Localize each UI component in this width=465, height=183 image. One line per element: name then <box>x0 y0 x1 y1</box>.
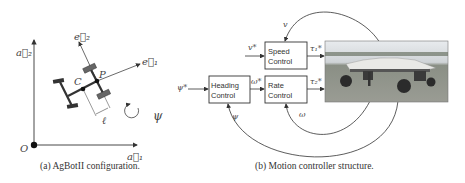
label-e1: e⃗₁ <box>142 56 158 67</box>
label-ell: ℓ <box>102 115 106 126</box>
label-p: P <box>98 69 106 80</box>
rate-label-1: Rate <box>268 81 284 90</box>
panel-a-diagram: a⃗₂ a⃗₁ e⃗₂ e⃗₁ O C P ℓ ψ <box>16 31 163 162</box>
origin-point <box>31 142 37 148</box>
label-tau1: τ₁* <box>310 44 322 53</box>
ell-dimension <box>96 108 108 114</box>
rotation-arrow-icon <box>125 104 139 118</box>
label-a2: a⃗₂ <box>16 47 32 58</box>
label-omega-ref: ω* <box>251 77 262 86</box>
figure-canvas: a⃗₂ a⃗₁ e⃗₂ e⃗₁ O C P ℓ ψ Speed Control … <box>0 0 465 183</box>
center-point-c <box>81 87 86 92</box>
label-psi: ψ <box>153 109 163 123</box>
label-v-ref: v* <box>248 43 257 52</box>
panel-b-diagram: Speed Control Heading Control Rate Contr… <box>177 12 448 157</box>
label-c: C <box>74 76 82 87</box>
v-feedback-loop <box>285 12 380 43</box>
label-e2: e⃗₂ <box>74 31 90 42</box>
label-omega-fb: ω <box>299 110 306 119</box>
rate-label-2: Control <box>268 91 293 100</box>
speed-label-2: Control <box>268 57 293 66</box>
label-v-fb: v <box>283 20 288 29</box>
label-tau2: τ₂* <box>310 77 322 86</box>
label-psi-fb: ψ <box>232 112 239 121</box>
caption-panel-a: (a) AgBotII configuration. <box>40 161 140 171</box>
heading-label-1: Heading <box>211 81 239 90</box>
caption-panel-b: (b) Motion controller structure. <box>255 161 374 171</box>
robot-photo <box>325 41 448 102</box>
label-psi-ref: ψ* <box>177 83 187 92</box>
heading-label-2: Control <box>211 91 236 100</box>
psi-feedback-loop <box>228 101 398 157</box>
label-origin: O <box>20 143 28 154</box>
speed-label-1: Speed <box>268 47 290 56</box>
